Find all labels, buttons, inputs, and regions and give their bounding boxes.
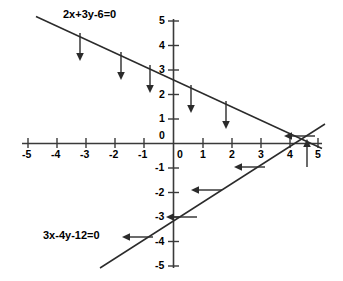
graph-figure: -5 -4 -3 -2 -1 0 1 2 3 4 5 5 4 3 2 1 0 -… [0, 0, 343, 281]
y-tick-label-0: 0 [159, 129, 165, 141]
line-2x-3y-6-stroke [36, 17, 322, 149]
x-tick-label--3: -3 [80, 148, 89, 160]
inequality-marker [122, 233, 153, 240]
inequality-marker [76, 33, 84, 61]
x-tick-label-2: 2 [229, 148, 235, 160]
y-tick-label--5: -5 [155, 259, 164, 271]
y-tick-label--4: -4 [155, 235, 164, 247]
y-tick-label-2: 2 [159, 88, 165, 100]
x-tick-label-1: 1 [200, 148, 206, 160]
x-tick-label-4: 4 [287, 148, 293, 160]
y-tick-label-4: 4 [159, 39, 165, 51]
line-3x-4y-12-stroke [100, 124, 325, 268]
y-tick-label-3: 3 [159, 63, 165, 75]
x-tick-label-5: 5 [315, 148, 321, 160]
line-3x-4y-12 [100, 124, 325, 268]
y-tick-label--1: -1 [155, 161, 164, 173]
y-tick-label-5: 5 [159, 14, 165, 26]
x-tick-label--5: -5 [22, 148, 31, 160]
y-tick-label--2: -2 [155, 186, 164, 198]
x-tick-label-0: 0 [177, 148, 183, 160]
inequality-marker [166, 213, 197, 220]
x-tick-label--2: -2 [109, 148, 118, 160]
y-tick-label-1: 1 [159, 112, 165, 124]
y-tick-label--3: -3 [155, 210, 164, 222]
line-label-2x-3y-6: 2x+3y-6=0 [63, 8, 116, 20]
inequality-marker [234, 163, 265, 170]
line-label-3x-4y-12: 3x-4y-12=0 [43, 229, 100, 241]
x-tick-label--1: -1 [138, 148, 147, 160]
x-tick-label--4: -4 [51, 148, 60, 160]
inequality-marker [146, 65, 154, 93]
line-2x-3y-6 [36, 17, 322, 168]
x-tick-label-3: 3 [258, 148, 264, 160]
